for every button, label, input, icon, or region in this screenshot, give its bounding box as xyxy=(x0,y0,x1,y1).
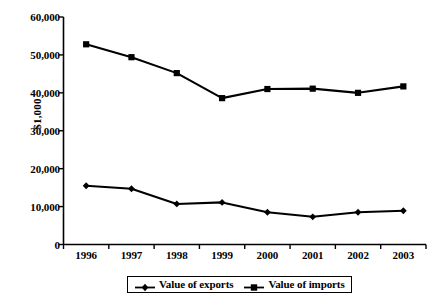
diamond-marker-icon xyxy=(134,279,156,290)
line-chart-figure: $1,000 010,00020,00030,00040,00050,00060… xyxy=(0,0,434,308)
data-point-marker xyxy=(355,90,361,96)
data-point-marker xyxy=(174,70,180,76)
data-point-marker xyxy=(264,86,270,92)
legend-label-exports: Value of exports xyxy=(159,278,233,290)
data-point-marker xyxy=(400,207,407,214)
data-point-marker xyxy=(310,86,316,92)
legend-label-imports: Value of imports xyxy=(268,278,344,290)
data-point-marker xyxy=(219,199,226,206)
data-point-marker xyxy=(309,213,316,220)
data-point-marker xyxy=(128,185,135,192)
data-point-marker xyxy=(219,95,225,101)
data-point-marker xyxy=(400,83,406,89)
series-imports xyxy=(83,41,406,101)
data-point-marker xyxy=(173,201,180,208)
chart-legend: Value of exports Value of imports xyxy=(127,276,352,293)
legend-entry-exports: Value of exports xyxy=(134,278,233,290)
series-layer xyxy=(83,41,407,220)
series-exports xyxy=(83,182,407,220)
data-point-marker xyxy=(264,209,271,216)
data-point-marker xyxy=(128,54,134,60)
square-marker-icon xyxy=(243,279,265,290)
data-point-marker xyxy=(355,209,362,216)
data-point-marker xyxy=(83,182,90,189)
legend-entry-imports: Value of imports xyxy=(243,278,344,290)
data-point-marker xyxy=(83,41,89,47)
plot-area xyxy=(0,0,434,308)
